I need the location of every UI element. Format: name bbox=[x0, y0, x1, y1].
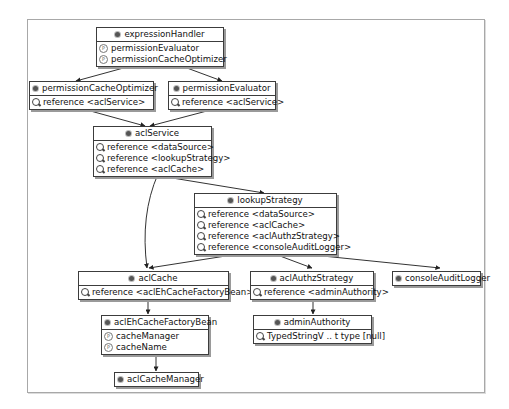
reference-magnifier-icon bbox=[197, 232, 206, 241]
bean-title: expressionHandler bbox=[97, 28, 223, 42]
reference-magnifier-icon bbox=[96, 154, 105, 163]
bean-title: aclEhCacheFactoryBean bbox=[102, 316, 208, 330]
reference-magnifier-icon bbox=[253, 288, 262, 297]
reference-row[interactable]: reference <aclCache> bbox=[195, 220, 336, 231]
property-row[interactable]: PpermissionCacheOptimizer bbox=[97, 54, 223, 65]
reference-magnifier-icon bbox=[96, 165, 105, 174]
bean-expressionHandler[interactable]: expressionHandler PpermissionEvaluator P… bbox=[96, 27, 224, 67]
edge-aclService-aclCache bbox=[145, 174, 158, 268]
reference-row[interactable]: TypedStringV .. t type [null] bbox=[254, 331, 371, 342]
bean-title: aclAuthzStrategy bbox=[251, 272, 373, 286]
bean-icon bbox=[105, 320, 110, 325]
reference-row[interactable]: reference <aclCache> bbox=[94, 164, 211, 175]
reference-magnifier-icon bbox=[197, 210, 206, 219]
reference-row[interactable]: reference <aclAuthzStrategy> bbox=[195, 231, 336, 242]
reference-magnifier-icon bbox=[197, 243, 206, 252]
bean-aclCache[interactable]: aclCache reference <aclEhCacheFactoryBea… bbox=[78, 271, 229, 300]
reference-row[interactable]: reference <aclService> bbox=[169, 97, 275, 108]
bean-icon bbox=[115, 32, 120, 37]
bean-aclCacheManager[interactable]: aclCacheManager bbox=[114, 372, 199, 387]
bean-title: aclCacheManager bbox=[115, 373, 198, 386]
reference-row[interactable]: reference <dataSource> bbox=[94, 142, 211, 153]
property-icon: P bbox=[104, 343, 113, 352]
bean-icon bbox=[275, 320, 280, 325]
reference-row[interactable]: reference <lookupStrategy> bbox=[94, 153, 211, 164]
reference-row[interactable]: reference <consoleAuditLogger> bbox=[195, 242, 336, 253]
bean-permissionEvaluator[interactable]: permissionEvaluator reference <aclServic… bbox=[168, 81, 276, 110]
reference-magnifier-icon bbox=[171, 98, 180, 107]
property-row[interactable]: PpermissionEvaluator bbox=[97, 43, 223, 54]
property-row[interactable]: PcacheManager bbox=[102, 331, 208, 342]
bean-adminAuthority[interactable]: adminAuthority TypedStringV .. t type [n… bbox=[253, 315, 372, 344]
bean-title: lookupStrategy bbox=[195, 194, 336, 208]
reference-row[interactable]: reference <aclService> bbox=[30, 97, 153, 108]
bean-icon bbox=[174, 86, 179, 91]
bean-title: permissionCacheOptimizer bbox=[30, 82, 153, 96]
bean-title: permissionEvaluator bbox=[169, 82, 275, 96]
reference-magnifier-icon bbox=[96, 143, 105, 152]
property-icon: P bbox=[99, 55, 108, 64]
bean-aclEhCacheFactoryBean[interactable]: aclEhCacheFactoryBean PcacheManager Pcac… bbox=[101, 315, 209, 355]
reference-row[interactable]: reference <aclEhCacheFactoryBean> bbox=[79, 287, 228, 298]
bean-permissionCacheOptimizer[interactable]: permissionCacheOptimizer reference <aclS… bbox=[29, 81, 154, 110]
bean-title: consoleAuditLogger bbox=[393, 272, 480, 285]
bean-title: adminAuthority bbox=[254, 316, 371, 330]
reference-magnifier-icon bbox=[32, 98, 41, 107]
property-icon: P bbox=[104, 332, 113, 341]
reference-row[interactable]: reference <adminAuthority> bbox=[251, 287, 373, 298]
bean-title: aclCache bbox=[79, 272, 228, 286]
reference-magnifier-icon bbox=[81, 288, 90, 297]
bean-icon bbox=[396, 276, 401, 281]
reference-magnifier-icon bbox=[197, 221, 206, 230]
bean-icon bbox=[33, 86, 38, 91]
property-icon: P bbox=[99, 44, 108, 53]
bean-title: aclService bbox=[94, 127, 211, 141]
bean-aclAuthzStrategy[interactable]: aclAuthzStrategy reference <adminAuthori… bbox=[250, 271, 374, 300]
bean-icon bbox=[228, 198, 233, 203]
bean-icon bbox=[126, 131, 131, 136]
bean-icon bbox=[271, 276, 276, 281]
reference-magnifier-icon bbox=[256, 332, 265, 341]
bean-consoleAuditLogger[interactable]: consoleAuditLogger bbox=[392, 271, 481, 286]
bean-aclService[interactable]: aclService reference <dataSource> refere… bbox=[93, 126, 212, 177]
bean-icon bbox=[129, 276, 134, 281]
bean-lookupStrategy[interactable]: lookupStrategy reference <dataSource> re… bbox=[194, 193, 337, 255]
property-row[interactable]: PcacheName bbox=[102, 342, 208, 353]
reference-row[interactable]: reference <dataSource> bbox=[195, 209, 336, 220]
bean-icon bbox=[118, 377, 123, 382]
